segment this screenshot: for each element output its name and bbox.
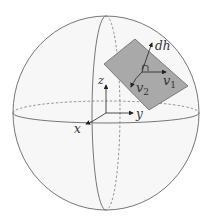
label-y: y — [135, 107, 143, 121]
sphere-diagram: dh v1 v2 z y x — [0, 0, 209, 221]
diagram-canvas: dh v1 v2 z y x — [0, 0, 209, 221]
label-dh: dh — [155, 39, 170, 53]
label-z: z — [97, 74, 104, 87]
label-x: x — [74, 122, 81, 136]
